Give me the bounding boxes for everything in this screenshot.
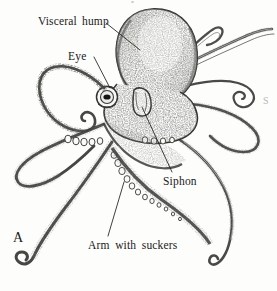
scan-artifact	[131, 1, 134, 3]
leader-arm	[108, 182, 124, 236]
edge-artifact-label: S	[263, 96, 269, 106]
siphon	[133, 88, 151, 116]
label-visceral-hump: Visceral hump	[38, 16, 109, 28]
octopus-figure: Visceral hump Eye Siphon Arm with sucker…	[0, 0, 277, 291]
label-arm-with-suckers: Arm with suckers	[88, 240, 177, 252]
eye	[97, 86, 118, 107]
label-siphon: Siphon	[163, 176, 197, 188]
label-eye: Eye	[68, 51, 86, 63]
panel-label: A	[13, 231, 23, 245]
